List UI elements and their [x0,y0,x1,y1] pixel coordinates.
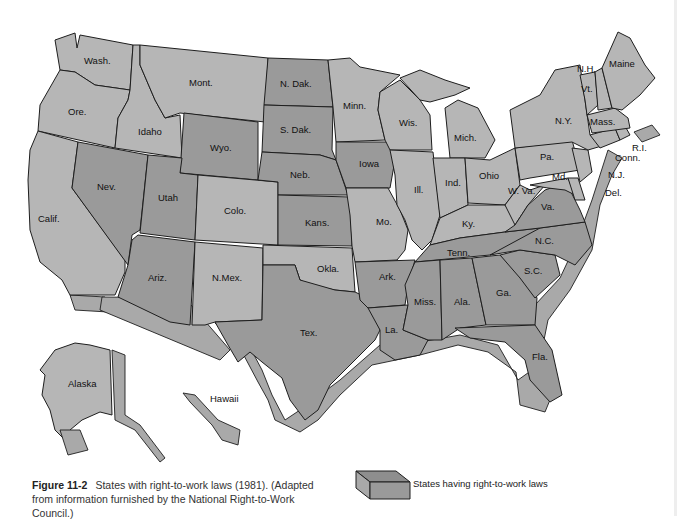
label-fla: Fla. [532,351,548,362]
label-minn: Minn. [343,100,366,111]
label-ark: Ark. [379,271,396,282]
label-wva: W. Va. [508,185,535,196]
label-iowa: Iowa [359,158,380,169]
figure-label: Figure 11-2 [32,479,87,491]
legend-label: States having right-to-work laws [413,478,548,489]
label-mich: Mich. [454,132,477,143]
label-ill: Ill. [414,184,424,195]
label-utah: Utah [158,192,178,203]
state-mich [445,100,495,158]
label-nev: Nev. [97,181,116,192]
label-ny: N.Y. [555,115,572,126]
label-maine: Maine [609,58,635,69]
label-kans: Kans. [305,217,329,228]
label-mass: Mass. [590,116,615,127]
label-mont: Mont. [189,77,213,88]
label-la: La. [385,324,398,335]
figure-caption: Figure 11-2States with right-to-work law… [32,478,332,520]
label-wis: Wis. [399,117,417,128]
label-okla: Okla. [317,263,339,274]
label-nh: N.H. [577,63,596,74]
label-ga: Ga. [496,287,511,298]
label-ala: Ala. [454,296,470,307]
label-nmex: N.Mex. [212,272,242,283]
label-wyo: Wyo. [210,142,232,153]
label-wash: Wash. [84,55,111,66]
label-pa: Pa. [540,151,554,162]
label-mo: Mo. [376,216,392,227]
label-nj: N.J. [608,169,625,180]
label-ky: Ky. [462,218,475,229]
label-hawaii: Hawaii [210,393,239,404]
label-ariz: Ariz. [148,272,167,283]
label-alaska: Alaska [68,378,97,389]
label-neb: Neb. [290,169,310,180]
label-del: Del. [605,187,622,198]
label-va: Va. [541,201,555,212]
state-alaska [40,343,165,462]
label-ore: Ore. [68,106,86,117]
label-ndak: N. Dak. [280,78,312,89]
label-ri: R.I. [632,142,647,153]
label-nc: N.C. [535,235,554,246]
label-ind: Ind. [445,177,461,188]
label-idaho: Idaho [138,126,162,137]
legend-swatch [356,471,410,499]
label-miss: Miss. [414,296,436,307]
label-md: Md. [552,171,568,182]
label-tenn: Tenn. [447,247,470,258]
label-sdak: S. Dak. [280,124,311,135]
label-vt: Vt. [581,83,593,94]
label-colo: Colo. [224,205,246,216]
label-tex: Tex. [300,327,317,338]
state-maine [602,32,655,110]
label-sc: S.C. [524,265,542,276]
label-ohio: Ohio [479,170,499,181]
state-nmex [192,242,263,325]
label-calif: Calif. [38,213,60,224]
label-conn: Conn. [615,152,640,163]
